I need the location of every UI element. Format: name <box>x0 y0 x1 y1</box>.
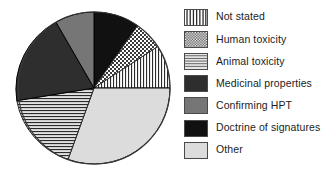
pie-chart-plot <box>14 8 174 168</box>
pie-chart-svg <box>14 8 174 168</box>
legend-label: Animal toxicity <box>216 56 285 68</box>
legend-item-medicinal-properties: Medicinal properties <box>184 73 330 95</box>
legend-label: Human toxicity <box>216 34 286 46</box>
horizontal-lines-swatch <box>184 53 208 70</box>
checkerboard-swatch <box>184 31 208 48</box>
dark-gray-swatch <box>184 75 208 92</box>
legend-item-other: Other <box>184 139 330 161</box>
legend-item-animal-toxicity: Animal toxicity <box>184 50 330 72</box>
chart-legend: Not stated Human toxicity <box>184 6 330 174</box>
legend-label: Medicinal properties <box>216 78 312 90</box>
legend-label: Other <box>216 144 243 156</box>
pie-chart-figure: Not stated Human toxicity <box>0 0 332 179</box>
medium-gray-swatch <box>184 97 208 114</box>
legend-item-not-stated: Not stated <box>184 6 330 28</box>
legend-label: Doctrine of signatures <box>216 122 320 134</box>
vertical-lines-swatch <box>184 9 208 26</box>
legend-item-confirming-hpt: Confirming HPT <box>184 95 330 117</box>
black-swatch <box>184 120 208 137</box>
legend-label: Confirming HPT <box>216 100 292 112</box>
legend-item-human-toxicity: Human toxicity <box>184 28 330 50</box>
legend-label: Not stated <box>216 11 265 23</box>
light-gray-swatch <box>184 142 208 159</box>
legend-item-doctrine-of-signatures: Doctrine of signatures <box>184 117 330 139</box>
